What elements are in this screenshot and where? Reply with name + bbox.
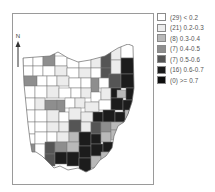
- legend-label: (29) < 0.2: [170, 14, 198, 21]
- legend-swatch: [157, 66, 166, 74]
- legend: (29) < 0.2 (21) 0.2-0.3 (8) 0.3-0.4 (7) …: [157, 12, 215, 86]
- north-label: N: [13, 33, 23, 40]
- legend-swatch: [157, 24, 166, 32]
- legend-item: (7) 0.5-0.6: [157, 54, 215, 65]
- legend-swatch: [157, 45, 166, 53]
- legend-item: (0) >= 0.7: [157, 75, 215, 86]
- legend-item: (7) 0.4-0.5: [157, 44, 215, 55]
- legend-swatch: [157, 13, 166, 21]
- ohio-county-map: [20, 44, 140, 176]
- legend-item: (8) 0.3-0.4: [157, 33, 215, 44]
- legend-label: (21) 0.2-0.3: [170, 24, 204, 31]
- legend-swatch: [157, 55, 166, 63]
- legend-label: (0) >= 0.7: [170, 77, 198, 84]
- legend-label: (7) 0.5-0.6: [170, 56, 200, 63]
- legend-label: (8) 0.3-0.4: [170, 35, 200, 42]
- legend-item: (16) 0.6-0.7: [157, 65, 215, 76]
- legend-item: (29) < 0.2: [157, 12, 215, 23]
- legend-swatch: [157, 76, 166, 84]
- legend-swatch: [157, 34, 166, 42]
- legend-label: (16) 0.6-0.7: [170, 66, 204, 73]
- legend-item: (21) 0.2-0.3: [157, 23, 215, 34]
- legend-label: (7) 0.4-0.5: [170, 45, 200, 52]
